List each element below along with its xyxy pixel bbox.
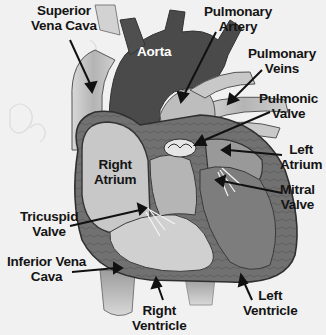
label-mitral-valve: Mitral Valve xyxy=(280,182,315,212)
label-pulmonic-valve: Pulmonic Valve xyxy=(259,91,318,121)
label-pulmonary-artery: Pulmonary Artery xyxy=(204,4,272,34)
label-inferior-vena-cava: Inferior Vena Cava xyxy=(7,254,86,284)
pulmonic-valve-shape xyxy=(164,139,196,157)
label-superior-vena-cava: Superior Vena Cava xyxy=(31,3,97,33)
label-right-atrium: Right Atrium xyxy=(94,157,136,187)
label-aorta: Aorta xyxy=(137,44,171,59)
heart-diagram: Superior Vena Cava Pulmonary Artery Aort… xyxy=(0,0,326,335)
label-right-ventricle: Right Ventricle xyxy=(132,303,186,333)
label-left-ventricle: Left Ventricle xyxy=(243,288,297,318)
label-tricuspid-valve: Tricuspid Valve xyxy=(20,209,78,239)
label-left-atrium: Left Atrium xyxy=(280,142,322,172)
label-pulmonary-veins: Pulmonary Veins xyxy=(248,46,316,76)
